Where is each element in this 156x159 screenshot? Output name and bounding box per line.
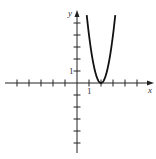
parabola-curve [87, 15, 116, 83]
coordinate-plane: y x 1 1 [0, 0, 156, 159]
x-axis [5, 80, 154, 87]
x-unit-tick-label: 1 [87, 86, 92, 96]
x-axis-label: x [147, 85, 152, 95]
y-unit-tick-label: 1 [69, 66, 74, 76]
y-axis-label: y [67, 8, 72, 18]
y-axis [74, 10, 81, 153]
y-axis-arrow-icon [75, 10, 80, 17]
